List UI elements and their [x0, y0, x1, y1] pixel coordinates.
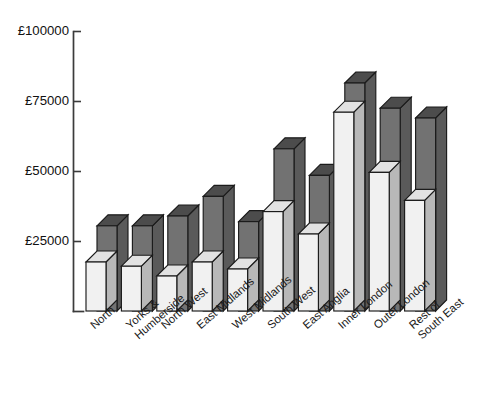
y-tick-label-100000: £100000	[18, 23, 69, 38]
chart-container: £100000 £75000 £50000 £25000 NorthYorks …	[0, 0, 477, 408]
bar-front-face-front-0	[86, 262, 106, 311]
y-tick-label-50000: £50000	[25, 163, 69, 178]
y-tick-label-75000: £75000	[25, 93, 69, 108]
bar-front-face-front-1	[121, 266, 141, 311]
bar-side-face-back-9	[436, 107, 447, 311]
bar-front-face-front-7	[334, 112, 354, 311]
bar-chart-3d: £100000 £75000 £50000 £25000 NorthYorks …	[0, 0, 477, 408]
bar-front-0	[86, 251, 117, 311]
bar-side-face-front-7	[354, 101, 365, 311]
bar-side-face-front-5	[283, 201, 294, 311]
bar-side-face-front-9	[425, 189, 436, 311]
y-tick-label-25000: £25000	[25, 233, 69, 248]
bar-front-7	[334, 101, 365, 311]
